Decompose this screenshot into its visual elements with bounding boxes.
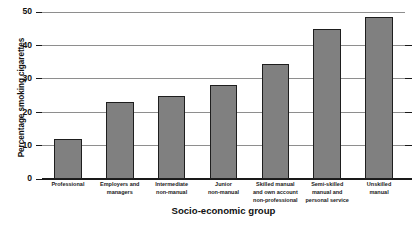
y-tick-mark-right-30 [405,78,412,79]
y-tick-label-40: 40 [8,41,32,50]
plot-area: 01020304050 [42,12,405,179]
y-tick-label-0: 0 [8,174,32,183]
x-tick-label-1: Employers andmanagers [94,181,146,197]
x-tick-label-2: Intermediatenon-manual [146,181,198,197]
y-tick-mark-right-10 [405,145,412,146]
x-tick-label-line: non-manual [208,189,239,195]
y-tick-mark-0 [36,179,42,180]
y-tick-mark-right-0 [405,178,412,179]
x-axis-title: Socio-economic group [42,205,405,216]
x-axis-tick-labels: ProfessionalEmployers andmanagersInterme… [42,181,405,205]
bar-2 [158,96,185,180]
x-tick-label-line: non-professional [253,197,298,203]
x-tick-label-line: Professional [51,181,84,187]
gridline-30 [42,78,405,79]
bar-1 [106,102,133,179]
x-tick-label-line: manual and [312,189,343,195]
y-tick-label-20: 20 [8,108,32,117]
y-tick-label-10: 10 [8,141,32,150]
y-tick-mark-20 [36,112,42,113]
bar-4 [262,64,289,179]
x-tick-label-line: non-manual [156,189,187,195]
x-tick-label-4: Skilled manualand own accountnon-profess… [249,181,301,205]
y-tick-mark-right-40 [405,45,412,46]
y-tick-mark-right-20 [405,112,412,113]
x-tick-label-line: personal service [305,197,348,203]
x-tick-label-line: manual [369,189,388,195]
bar-5 [313,29,340,179]
x-tick-label-line: Employers and [100,181,139,187]
x-tick-label-3: Juniornon-manual [198,181,250,197]
bar-6 [365,17,392,179]
y-tick-mark-10 [36,145,42,146]
x-tick-label-line: and own account [253,189,298,195]
x-tick-label-line: Junior [215,181,232,187]
y-axis-title: Percentage smoking cigarettes [17,10,26,186]
y-tick-label-30: 30 [8,74,32,83]
bar-0 [54,139,81,179]
y-tick-mark-50 [36,12,42,13]
x-tick-label-6: Unskilledmanual [353,181,405,197]
x-tick-label-line: Intermediate [155,181,188,187]
y-tick-mark-30 [36,78,42,79]
y-axis-spine [41,12,42,179]
x-tick-label-line: Semi-skilled [311,181,343,187]
bar-3 [210,85,237,179]
y-tick-mark-40 [36,45,42,46]
x-tick-label-line: Skilled manual [256,181,295,187]
gridline-40 [42,45,405,46]
x-tick-label-line: Unskilled [367,181,391,187]
bar-chart: Percentage smoking cigarettes 0102030405… [0,0,412,227]
x-tick-label-line: managers [107,189,133,195]
x-tick-label-5: Semi-skilledmanual andpersonal service [301,181,353,205]
y-tick-label-50: 50 [8,7,32,16]
x-tick-label-0: Professional [42,181,94,189]
gridline-50 [42,12,405,13]
